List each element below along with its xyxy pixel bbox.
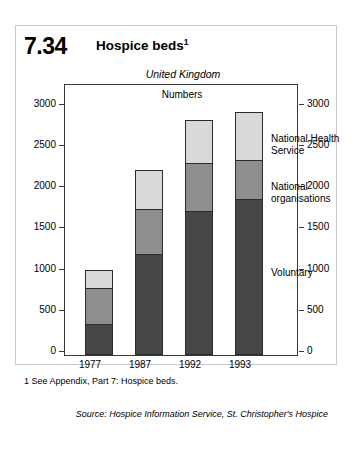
y-axis-label-left: 500 (39, 305, 56, 315)
bar-1993[interactable] (235, 112, 263, 355)
bar-segment-national-organisations[interactable] (186, 164, 212, 212)
y-axis-label-right: 500 (307, 305, 324, 315)
bar-segment-national-organisations[interactable] (86, 289, 112, 325)
y-axis-label-left: 1500 (34, 222, 56, 232)
bar-segment-voluntary[interactable] (186, 212, 212, 354)
y-axis-label-right: 1500 (307, 222, 329, 232)
bar-1992[interactable] (185, 120, 213, 355)
bar-1987[interactable] (135, 170, 163, 355)
bar-segment-nhs[interactable] (236, 113, 262, 161)
x-axis-label-1977: 1977 (70, 359, 110, 370)
series-label-nhs-line1: National Health (271, 133, 339, 144)
series-label-national-organisations: National organisations (271, 181, 341, 205)
y-axis-label-right: 0 (307, 346, 313, 356)
x-axis-label-1992: 1992 (170, 359, 210, 370)
footnote-marker: 1 (184, 37, 189, 47)
bar-segment-nhs[interactable] (86, 271, 112, 289)
axis-tick (299, 227, 304, 228)
bar-1977[interactable] (85, 270, 113, 355)
series-label-nhs: National Health Service (271, 133, 341, 157)
y-axis-label-left: 1000 (34, 264, 56, 274)
series-label-national-line1: National (271, 181, 308, 192)
chart-units-label: Numbers (65, 89, 299, 100)
bar-segment-nhs[interactable] (136, 171, 162, 210)
footnote-text: 1 See Appendix, Part 7: Hospice beds. (24, 376, 178, 386)
bar-segment-voluntary[interactable] (236, 200, 262, 354)
axis-tick (299, 310, 304, 311)
bar-segment-national-organisations[interactable] (236, 161, 262, 200)
bar-segment-national-organisations[interactable] (136, 210, 162, 255)
series-label-national-line2: organisations (271, 193, 330, 204)
x-axis-label-1987: 1987 (120, 359, 160, 370)
figure-panel: 7.34 Hospice beds1 United Kingdom 3000 2… (15, 25, 337, 365)
plot-frame: Numbers (64, 84, 298, 356)
y-axis-right: 3000 2500 2000 1500 1000 500 0 (299, 84, 345, 356)
plot-area: National Health Service National organis… (65, 107, 299, 355)
axis-tick (299, 104, 304, 105)
bar-segment-voluntary[interactable] (136, 255, 162, 354)
y-axis-label-left: 3000 (34, 99, 56, 109)
page-title: Hospice beds1 (96, 36, 189, 56)
bar-segment-nhs[interactable] (186, 121, 212, 164)
y-axis-label-left: 2000 (34, 181, 56, 191)
series-label-voluntary: Voluntary (271, 267, 341, 279)
x-axis-label-1993: 1993 (220, 359, 260, 370)
y-axis-label-left: 2500 (34, 140, 56, 150)
series-label-nhs-line2: Service (271, 145, 304, 156)
chart-subtitle-country: United Kingdom (64, 68, 302, 80)
figure-title-text: Hospice beds (96, 38, 184, 53)
y-axis-label-left: 0 (50, 346, 56, 356)
y-axis-label-right: 3000 (307, 99, 329, 109)
axis-tick (299, 351, 304, 352)
bar-segment-voluntary[interactable] (86, 325, 112, 354)
source-text: Source: Hospice Information Service, St.… (76, 409, 328, 419)
y-axis-left: 3000 2500 2000 1500 1000 500 0 (18, 84, 64, 356)
figure-number: 7.34 (24, 32, 67, 60)
